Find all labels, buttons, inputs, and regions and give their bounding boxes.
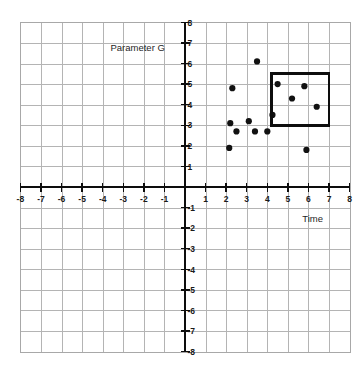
y-axis-tick-label: -1 — [188, 203, 196, 213]
data-point — [226, 145, 232, 151]
data-point — [252, 128, 258, 134]
y-axis-tick-label: 8 — [188, 18, 193, 28]
y-axis-tick-label: 4 — [188, 100, 193, 110]
y-axis-tick-label: 2 — [188, 141, 193, 151]
x-axis-tick-label: -8 — [17, 194, 25, 204]
x-axis-tick-label: 5 — [286, 194, 291, 204]
data-point — [227, 120, 233, 126]
y-axis-tick-label: 6 — [188, 59, 193, 69]
x-axis-tick-label: 4 — [265, 194, 270, 204]
data-point — [289, 95, 295, 101]
data-point — [301, 83, 307, 89]
y-axis-tick-label: -6 — [188, 306, 196, 316]
annotation-layer — [271, 74, 329, 125]
x-axis-tick-label: -2 — [140, 194, 148, 204]
coordinate-plot: -8-7-6-5-4-3-2-11234567887654321-1-2-3-4… — [0, 0, 363, 372]
y-axis-tick-label: 7 — [188, 38, 193, 48]
data-point — [275, 81, 281, 87]
x-axis-tick-label: 8 — [347, 194, 352, 204]
y-axis-tick-label: -7 — [188, 326, 196, 336]
y-axis-tick-label: 3 — [188, 120, 193, 130]
x-axis-tick-label: -6 — [58, 194, 66, 204]
x-axis-tick-label: 7 — [327, 194, 332, 204]
data-point — [264, 128, 270, 134]
y-axis-tick-label: 5 — [188, 79, 193, 89]
x-axis-tick-label: 3 — [244, 194, 249, 204]
x-axis-tick-label: -1 — [161, 194, 169, 204]
x-axis-title: Time — [302, 213, 323, 224]
axis-layer — [20, 22, 349, 351]
x-axis-tick-label: 6 — [306, 194, 311, 204]
y-axis-title: Parameter G — [110, 42, 164, 53]
data-point — [254, 58, 260, 64]
data-point — [233, 128, 239, 134]
x-axis-tick-label: -4 — [99, 194, 107, 204]
x-axis-tick-label: -5 — [78, 194, 86, 204]
data-point — [314, 104, 320, 110]
y-axis-tick-label: -3 — [188, 244, 196, 254]
selection-rectangle[interactable] — [271, 74, 329, 125]
x-axis-tick-label: 1 — [203, 194, 208, 204]
y-axis-tick-label: -2 — [188, 223, 196, 233]
data-point — [303, 147, 309, 153]
x-axis-tick-label: 2 — [224, 194, 229, 204]
y-axis-tick-label: -8 — [188, 347, 196, 357]
x-axis-tick-label: -3 — [119, 194, 127, 204]
y-axis-tick-label: 1 — [188, 162, 193, 172]
y-axis-tick-label: -4 — [188, 265, 196, 275]
y-axis-tick-label: -5 — [188, 285, 196, 295]
x-axis-tick-label: -7 — [37, 194, 45, 204]
data-point — [229, 85, 235, 91]
plot-canvas: -8-7-6-5-4-3-2-11234567887654321-1-2-3-4… — [0, 0, 363, 372]
data-point — [246, 118, 252, 124]
